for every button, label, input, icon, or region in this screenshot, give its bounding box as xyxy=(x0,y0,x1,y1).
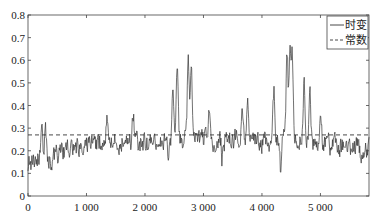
y-tick-label: 0.7 xyxy=(11,32,25,44)
series-group xyxy=(28,45,369,172)
time-varying-series-line xyxy=(28,45,369,172)
y-tick-label: 0.1 xyxy=(11,167,25,179)
x-tick-label: 4 000 xyxy=(250,201,275,213)
x-axis-ticks: 01 0002 0003 0004 0005 000 xyxy=(25,15,333,213)
x-tick-label: 3 000 xyxy=(191,201,216,213)
axes-frame xyxy=(28,15,369,196)
y-axis-ticks: 00.10.20.30.40.50.60.70.8 xyxy=(11,9,369,202)
x-tick-label: 1 000 xyxy=(74,201,99,213)
y-tick-label: 0.6 xyxy=(11,54,25,66)
y-tick-label: 0.4 xyxy=(11,100,25,112)
x-tick-label: 2 000 xyxy=(133,201,158,213)
legend: 时变 常数 xyxy=(327,16,368,49)
x-tick-label: 5 000 xyxy=(308,201,333,213)
x-tick-label: 0 xyxy=(25,201,31,213)
y-tick-label: 0 xyxy=(20,190,26,202)
y-tick-label: 0.8 xyxy=(11,9,25,21)
y-tick-label: 0.5 xyxy=(11,77,25,89)
plot-area: 01 0002 0003 0004 0005 000 00.10.20.30.4… xyxy=(11,9,369,213)
legend-label-time-varying: 时变 xyxy=(345,18,367,32)
line-chart: 01 0002 0003 0004 0005 000 00.10.20.30.4… xyxy=(0,0,380,222)
y-tick-label: 0.2 xyxy=(11,145,25,157)
legend-label-constant: 常数 xyxy=(345,34,367,47)
y-tick-label: 0.3 xyxy=(11,122,25,134)
